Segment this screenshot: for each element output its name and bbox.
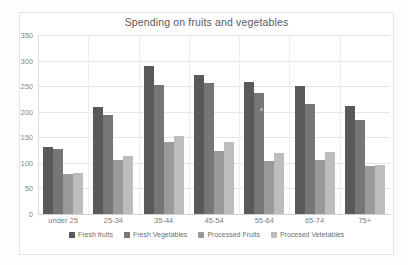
bar[interactable]: [244, 82, 254, 214]
bar[interactable]: [365, 166, 375, 214]
y-axis-tick-label: 150: [20, 133, 33, 142]
bar[interactable]: [194, 75, 204, 214]
bar[interactable]: [345, 106, 355, 214]
legend-label: Fresh Vegetables: [133, 231, 187, 238]
bar[interactable]: [315, 160, 325, 214]
bar-group: [38, 35, 88, 214]
x-axis-tick-label: 45-54: [189, 216, 239, 225]
chart-legend: Fresh fruitsFresh VegetablesProcessed Fr…: [19, 231, 394, 238]
bar-group: [239, 35, 289, 214]
y-axis-tick-label: 300: [20, 56, 33, 65]
bar[interactable]: [73, 173, 83, 214]
chart-card: Spending on fruits and vegetables 050100…: [0, 0, 408, 265]
legend-item[interactable]: Fresh fruits: [69, 231, 113, 238]
x-axis-tick-label: 35-44: [139, 216, 189, 225]
x-axis-tick-label: 55-64: [239, 216, 289, 225]
bar[interactable]: [123, 156, 133, 214]
x-axis-tick-label: under 25: [38, 216, 88, 225]
legend-item[interactable]: Procesed Vetetables: [271, 231, 344, 238]
bar[interactable]: [164, 142, 174, 214]
bar[interactable]: [144, 66, 154, 214]
bar[interactable]: [325, 152, 335, 214]
legend-item[interactable]: Processed Fruits: [198, 231, 260, 238]
bar[interactable]: [103, 115, 113, 214]
legend-swatch-icon: [271, 232, 277, 238]
bar[interactable]: [295, 86, 305, 214]
bar[interactable]: [43, 147, 53, 214]
x-axis-tick-label: 75+: [340, 216, 390, 225]
y-axis-tick-label: 50: [25, 184, 33, 193]
bar[interactable]: [63, 174, 73, 214]
x-axis-tick-label: 65-74: [289, 216, 339, 225]
bar-group: [189, 35, 239, 214]
group-separator: [139, 35, 140, 214]
group-separator: [239, 35, 240, 214]
bar-group: [340, 35, 390, 214]
y-axis-tick-label: 100: [20, 158, 33, 167]
legend-label: Processed Fruits: [207, 231, 260, 238]
legend-item[interactable]: Fresh Vegetables: [124, 231, 187, 238]
bar[interactable]: [53, 149, 63, 214]
legend-label: Fresh fruits: [78, 231, 113, 238]
bar[interactable]: [113, 160, 123, 214]
bar-group: [88, 35, 138, 214]
bar-group: [289, 35, 339, 214]
bar[interactable]: [93, 107, 103, 214]
group-separator: [340, 35, 341, 214]
bar[interactable]: [355, 120, 365, 214]
y-axis-tick-label: 350: [20, 31, 33, 40]
group-separator: [88, 35, 89, 214]
chart-title: Spending on fruits and vegetables: [19, 16, 394, 28]
bar-group: [139, 35, 189, 214]
legend-swatch-icon: [124, 232, 130, 238]
bar[interactable]: [224, 142, 234, 214]
legend-label: Procesed Vetetables: [280, 231, 344, 238]
y-axis-tick-label: 0: [29, 210, 33, 219]
plot-area: 050100150200250300350: [38, 35, 390, 214]
y-axis-tick-label: 250: [20, 82, 33, 91]
bar[interactable]: [204, 83, 214, 214]
x-axis-tick-label: 25-34: [88, 216, 138, 225]
bar[interactable]: [214, 151, 224, 214]
legend-swatch-icon: [198, 232, 204, 238]
scan-artifact: [260, 108, 263, 111]
bar[interactable]: [154, 85, 164, 214]
legend-swatch-icon: [69, 232, 75, 238]
bar[interactable]: [274, 153, 284, 214]
bar-groups: [38, 35, 390, 214]
bar[interactable]: [375, 165, 385, 214]
gridline: 0: [38, 214, 390, 215]
x-axis-labels: under 2525-3435-4445-5455-6465-7475+: [38, 216, 390, 225]
bar[interactable]: [305, 104, 315, 214]
bar[interactable]: [264, 161, 274, 214]
bar[interactable]: [174, 136, 184, 214]
group-separator: [189, 35, 190, 214]
group-separator: [289, 35, 290, 214]
y-axis-tick-label: 200: [20, 107, 33, 116]
bar[interactable]: [254, 93, 264, 214]
